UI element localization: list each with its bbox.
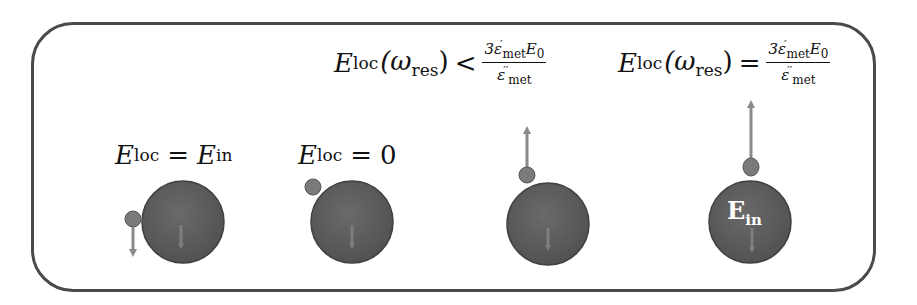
case1-group xyxy=(125,181,224,263)
spheres-drawing xyxy=(0,0,917,305)
small-particle xyxy=(519,167,535,183)
case4-group xyxy=(709,104,791,263)
small-particle xyxy=(305,179,321,195)
large-sphere xyxy=(507,183,589,265)
inner-label-main: E xyxy=(727,196,745,225)
small-particle xyxy=(743,158,759,176)
inner-field-label: Ein xyxy=(727,196,762,229)
case3-group xyxy=(507,130,589,265)
large-sphere xyxy=(311,181,393,263)
large-sphere xyxy=(142,181,224,263)
small-particle xyxy=(125,211,141,227)
inner-label-sub: in xyxy=(745,211,762,229)
case2-group xyxy=(305,179,393,263)
